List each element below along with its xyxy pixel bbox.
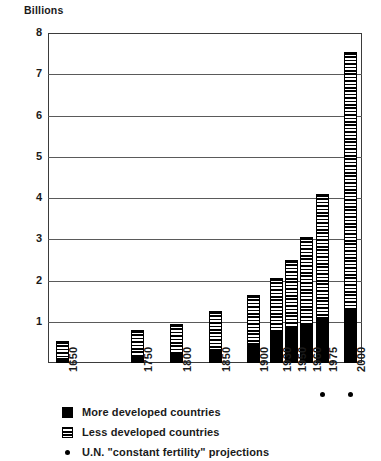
y-tick-label: 5 (14, 150, 42, 162)
bar-segment-less-developed (317, 195, 328, 319)
bar-segment-less-developed (345, 53, 356, 312)
y-tick-label: 2 (14, 274, 42, 286)
bar-segment-less-developed (132, 331, 143, 357)
x-tick-label-1960: 1960 (311, 347, 323, 372)
bar-segment-less-developed (248, 296, 259, 346)
chart-legend: More developed countries Less developed … (62, 403, 269, 461)
bar-segment-less-developed (286, 261, 297, 329)
bar-segment-less-developed (301, 238, 312, 325)
bar-segment-more-developed (345, 309, 356, 362)
bar-1960 (300, 237, 313, 363)
x-tick-label-1800: 1800 (181, 347, 193, 372)
bar-2000 (344, 52, 357, 363)
gridline (48, 157, 362, 158)
x-tick-label-1930: 1930 (281, 347, 293, 372)
x-tick-label-1850: 1850 (220, 347, 232, 372)
bar-segment-more-developed (132, 355, 143, 362)
bar-segment-less-developed (271, 279, 282, 333)
y-tick-label: 8 (14, 26, 42, 38)
bar-segment-less-developed (210, 312, 221, 352)
legend-item-less-developed: Less developed countries (62, 423, 269, 441)
dot-marker-icon (62, 447, 73, 458)
bar-segment-more-developed (57, 358, 68, 362)
y-axis-title: Billions (24, 4, 64, 16)
x-tick-label-1650: 1650 (67, 347, 79, 372)
bar-segment-more-developed (210, 350, 221, 362)
bar-segment-more-developed (171, 354, 182, 362)
projection-dot-2000 (348, 392, 353, 397)
legend-label: More developed countries (82, 406, 221, 418)
x-tick-label-1750: 1750 (142, 347, 154, 372)
bar-segment-less-developed (171, 325, 182, 356)
legend-label: U.N. "constant fertility" projections (82, 446, 269, 458)
bar-segment-more-developed (248, 343, 259, 362)
solid-square-swatch-icon (62, 407, 73, 418)
legend-label: Less developed countries (82, 426, 220, 438)
y-tick-label: 1 (14, 315, 42, 327)
y-tick-label: 4 (14, 191, 42, 203)
legend-item-projections: U.N. "constant fertility" projections (62, 443, 269, 461)
x-tick-label-2000: 2000 (355, 347, 367, 372)
bar-segment-more-developed (271, 331, 282, 362)
y-tick-label: 7 (14, 67, 42, 79)
projection-dot-1975 (320, 392, 325, 397)
gridline (48, 74, 362, 75)
hatched-square-swatch-icon (62, 427, 73, 438)
y-tick-label: 6 (14, 109, 42, 121)
x-tick-label-1950: 1950 (296, 347, 308, 372)
y-tick-label: 3 (14, 232, 42, 244)
x-tick-label-1975: 1975 (327, 347, 339, 372)
x-tick-label-1900: 1900 (258, 347, 270, 372)
bar-1975 (316, 194, 329, 363)
legend-item-more-developed: More developed countries (62, 403, 269, 421)
population-bar-chart: Billions 12345678 1650175018001850190019… (0, 0, 381, 461)
gridline (48, 116, 362, 117)
